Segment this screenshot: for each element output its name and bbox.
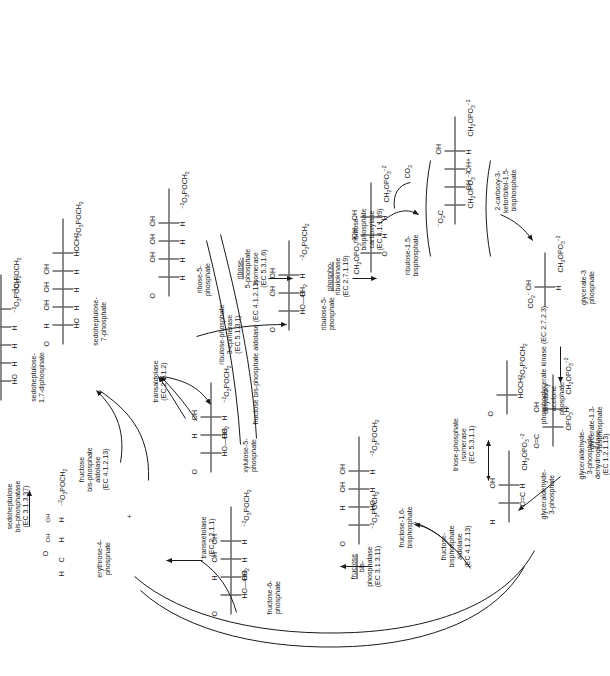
metabolite-label-sedoheptulose-1-7-diphosphate: sedoheptulose-1,7-diphosphate (30, 336, 46, 418)
metabolite-label-ribulose-1-5-bisphosphate: ribulose-1,5-bisphosphate (404, 222, 420, 288)
cofactor-co2: CO2 (404, 165, 413, 178)
enzyme-glyceraldehyde-3-phosphate-dehydrogenase: glyceraldehyde-3-phosphatedehydrogenase(… (578, 408, 610, 500)
metabolite-label-xylulose-5-phosphate: xylulose-5-phosphate (242, 424, 258, 486)
structure-erythrose-4-phosphate: H O C HOH HOH ⁻2O3POCH2 (40, 564, 112, 576)
enzyme-fructose-bis-phosphate-aldolase-long: fructose bis-phosphate aldolase (EC 4.1.… (252, 280, 260, 424)
metabolite-label-fructose-6-phosphate: fructose-6-phosphate (266, 566, 282, 628)
metabolite-label-fructose-1-6-bisphosphate: fructose-1,6-bisphosphate (398, 494, 414, 560)
metabolite-label-ribose-5-phosphate: ribose-5-phosphate (196, 248, 212, 310)
metabolite-label-glycerate-3-phosphate: glycerate-3phosphate (580, 254, 596, 320)
enzyme-fructose-bis-phosphatase: fructosebis-phosphatase(EC 3.1.3.11) (350, 522, 382, 610)
plus-sign: + (126, 514, 134, 518)
enzyme-phosphoribulokinase: phospho-ribulokinase(EC 2.7.1.19) (326, 238, 350, 314)
enzyme-sedoheptulose-bis-phosphatase: sedoheptulosebis-phosphatase(EC 3.1.3.37… (6, 458, 30, 554)
enzyme-fructose-bis-phosphate-aldolase-upper: fructosebis-phosphatealdolase(EC 4.1.2.1… (78, 430, 110, 508)
metabolite-label-sedoheptulose-7-phosphate: sedoheptulose-7-phosphate (92, 284, 108, 358)
metabolite-label-2-carboxy-3-ketoribitol-1-5-bisphosphate: 2-carboxy-3-ketoribitol-1,5-bisphosphate (494, 144, 518, 236)
enzyme-transaldolase: transaldolase(EC 2.2.1.2) (152, 342, 168, 420)
metabolite-label-glyceraldehyde-3-phosphate: glyceraldehyde-3-phosphate (540, 452, 556, 536)
enzyme-triose-phosphate-isomerase: triose-phosphateisomerase(EC 5.3.1.1) (452, 400, 476, 488)
enzyme-fructose-bisphosphate-aldolase-lower: fructose-bisphosphatealdolase(EC 4.1.2.1… (440, 504, 472, 588)
metabolite-label-erythrose-4-phosphate: erythrose-4-phosphate (96, 526, 112, 590)
